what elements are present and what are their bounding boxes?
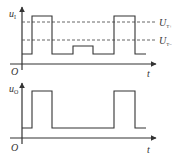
y-axis-label: uI [9, 8, 16, 20]
y-axis-label: uO [9, 83, 19, 95]
input-plot: uI O t UT+ UT− [9, 7, 172, 79]
origin-label: O [11, 142, 18, 153]
origin-label: O [11, 66, 18, 77]
output-waveform [22, 91, 146, 128]
x-axis-label: t [147, 144, 150, 155]
lower-threshold-label: UT− [159, 35, 172, 47]
x-axis-label: t [147, 68, 150, 79]
waveform-diagram: uI O t UT+ UT− uO O t [0, 0, 179, 157]
output-plot: uO O t [9, 83, 156, 155]
upper-threshold-label: UT+ [159, 17, 172, 29]
